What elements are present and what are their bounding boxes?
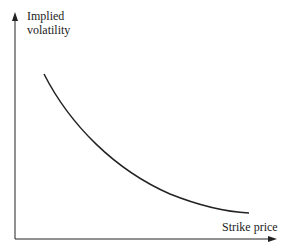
y-axis-label-line2: volatility — [27, 23, 70, 37]
chart-canvas — [0, 0, 289, 250]
volatility-skew-diagram: Implied volatility Strike price — [0, 0, 289, 250]
y-axis-label: Implied volatility — [27, 9, 70, 37]
y-axis-label-line1: Implied — [27, 9, 70, 23]
x-axis-label: Strike price — [222, 220, 278, 234]
volatility-curve — [44, 74, 249, 213]
x-axis-arrow-icon — [268, 236, 277, 242]
y-axis-arrow-icon — [12, 12, 18, 21]
